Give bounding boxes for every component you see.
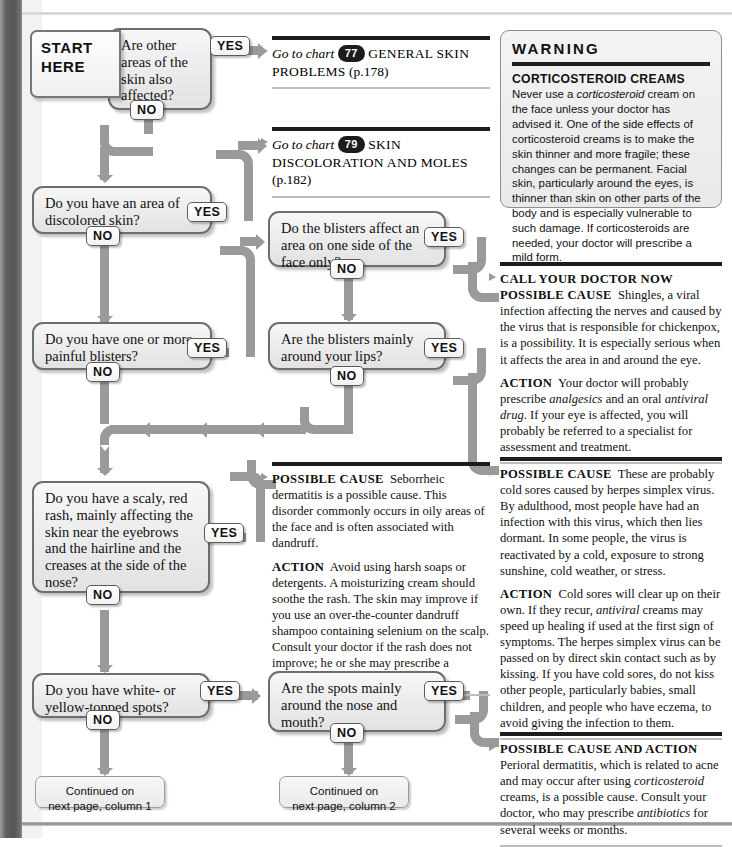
connector-return-elbow-right xyxy=(300,407,353,434)
action-label: ACTION xyxy=(272,560,324,574)
question-text-q3: Do you have one or more painful blisters… xyxy=(45,331,193,364)
connector-q2-no xyxy=(100,234,109,322)
tag-q1-yes[interactable]: YES xyxy=(210,36,250,56)
advice-cold-sores: POSSIBLE CAUSE These are probably cold s… xyxy=(500,457,722,740)
advice-call-doctor-now: CALL YOUR DOCTOR NOW POSSIBLE CAUSE Shin… xyxy=(500,262,722,464)
tag-q2-no[interactable]: NO xyxy=(86,226,120,246)
bullet-arrow-icon xyxy=(489,468,496,476)
question-box-q7[interactable]: Do you have white- or yellow-topped spot… xyxy=(32,673,210,718)
tag-q1-no[interactable]: NO xyxy=(130,100,164,120)
arrowhead-q2 xyxy=(97,175,113,183)
tag-q2-yes[interactable]: YES xyxy=(187,202,227,222)
goto-lead-1: Go to chart xyxy=(272,46,334,61)
tag-label: NO xyxy=(93,713,113,727)
warning-body: CORTICOSTEROID CREAMS Never use a cortic… xyxy=(512,72,710,266)
text-em-1: corticosteroid xyxy=(634,774,704,788)
question-box-q6[interactable]: Do you have a scaly, red rash, mainly af… xyxy=(32,481,210,593)
page-binding-gutter xyxy=(0,0,22,838)
cause-label: POSSIBLE CAUSE AND ACTION xyxy=(500,742,698,756)
divider-thin xyxy=(272,87,490,89)
text-em-2: antibiotics xyxy=(637,806,690,820)
tag-q5-yes[interactable]: YES xyxy=(424,338,464,358)
top-rule xyxy=(22,12,732,15)
connector-q5-yes-vert xyxy=(468,373,477,457)
tag-label: NO xyxy=(93,229,113,243)
tag-q4-no[interactable]: NO xyxy=(330,259,364,279)
divider-thick xyxy=(500,457,722,461)
continued-box-column1[interactable]: Continued onnext page, column 1 xyxy=(35,776,165,808)
goto-page-2: (p.182) xyxy=(272,172,311,187)
divider-thin xyxy=(272,196,490,198)
tag-q8-no[interactable]: NO xyxy=(330,723,364,743)
goto-lead-2: Go to chart xyxy=(272,137,334,152)
continued-box-column2[interactable]: Continued onnext page, column 2 xyxy=(279,776,409,808)
cause-text: These are probably cold sores caused by … xyxy=(500,467,714,578)
tag-label: YES xyxy=(211,526,237,540)
goto-chart-ref-79[interactable]: Go to chart 79 SKIN DISCOLORATION AND MO… xyxy=(272,127,490,198)
cause-label: POSSIBLE CAUSE xyxy=(272,472,384,486)
warning-body-2: cream on the face unless your doctor has… xyxy=(512,88,701,263)
cause-label: POSSIBLE CAUSE xyxy=(500,288,612,302)
tag-q3-yes[interactable]: YES xyxy=(187,338,227,358)
connector-q6-no xyxy=(100,610,109,672)
tag-q4-yes[interactable]: YES xyxy=(424,227,464,247)
tag-label: NO xyxy=(137,103,157,117)
action-pre: Avoid using harsh soaps or detergents. A… xyxy=(272,560,489,671)
divider-thin xyxy=(500,845,722,847)
bullet-arrow-icon xyxy=(261,473,268,481)
warning-body-em: corticosteroid xyxy=(577,88,645,100)
tag-q7-no[interactable]: NO xyxy=(86,710,120,730)
question-text-q1: Are other areas of the skin also affecte… xyxy=(121,37,188,103)
tag-q7-yes[interactable]: YES xyxy=(200,681,240,701)
question-box-q1[interactable]: Are other areas of the skin also affecte… xyxy=(108,28,212,110)
arrowhead-return-1 xyxy=(255,422,264,438)
arrowhead-q4 xyxy=(256,234,265,250)
action-post: creams may speed up healing if used at t… xyxy=(500,603,720,730)
continued-label-2: Continued onnext page, column 2 xyxy=(292,785,396,812)
connector-return-horizontal xyxy=(110,425,306,434)
action-em-1: analgesics xyxy=(549,392,602,406)
warning-divider xyxy=(512,62,710,66)
divider-thick xyxy=(500,262,722,266)
tag-label: NO xyxy=(93,588,113,602)
advice-cause-action: POSSIBLE CAUSE AND ACTION Perioral derma… xyxy=(500,741,722,838)
advice-cause: POSSIBLE CAUSE These are probably cold s… xyxy=(500,466,722,579)
bullet-arrow-icon xyxy=(261,47,268,55)
connector-q2-yes-top xyxy=(238,141,260,150)
question-box-q5[interactable]: Are the blisters mainly around your lips… xyxy=(268,322,446,370)
start-here-box[interactable]: START HERE xyxy=(30,30,121,98)
question-text-q5: Are the blisters mainly around your lips… xyxy=(281,331,413,364)
tag-label: YES xyxy=(217,39,243,53)
tag-q3-no[interactable]: NO xyxy=(86,362,120,382)
tag-label: YES xyxy=(431,341,457,355)
goto-chart-ref-77[interactable]: Go to chart 77 GENERAL SKIN PROBLEMS (p.… xyxy=(272,36,490,89)
divider-thick xyxy=(500,732,722,736)
question-box-q2[interactable]: Do you have an area of discolored skin? xyxy=(32,186,212,234)
arrowhead-return-2 xyxy=(198,422,207,438)
tag-label: YES xyxy=(431,684,457,698)
bullet-arrow-icon xyxy=(261,138,268,146)
arrowhead-q7 xyxy=(97,665,113,673)
arrowhead-q5 xyxy=(341,314,357,322)
advice-cause: POSSIBLE CAUSE Shingles, a viral infecti… xyxy=(500,287,722,368)
advice-action: ACTION Avoid using harsh soaps or deterg… xyxy=(272,559,490,688)
tag-label: YES xyxy=(194,341,220,355)
tag-q8-yes[interactable]: YES xyxy=(424,681,464,701)
arrowhead-q8 xyxy=(252,688,261,704)
tag-label: NO xyxy=(337,262,357,276)
question-box-q3[interactable]: Do you have one or more painful blisters… xyxy=(32,322,212,370)
tag-q6-no[interactable]: NO xyxy=(86,585,120,605)
tag-q6-yes[interactable]: YES xyxy=(204,523,244,543)
arrowhead-q6 xyxy=(97,468,113,476)
chart-number-badge-1: 77 xyxy=(338,45,365,62)
bullet-arrow-icon xyxy=(489,743,496,751)
continued-label-1: Continued onnext page, column 1 xyxy=(48,785,152,812)
divider-thick xyxy=(272,36,490,40)
divider-thick xyxy=(272,127,490,131)
divider-thick xyxy=(272,462,490,466)
advice-action: ACTION Cold sores will clear up on their… xyxy=(500,586,722,731)
start-label-line2: HERE xyxy=(41,58,113,77)
action-post: . If your eye is affected, you will prob… xyxy=(500,408,692,454)
tag-q5-no[interactable]: NO xyxy=(330,366,364,386)
